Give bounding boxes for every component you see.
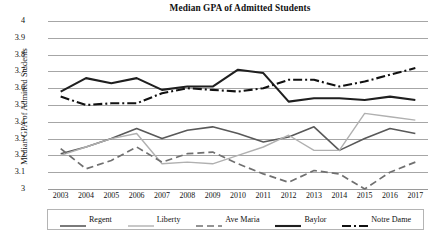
legend-item-notre-dame[interactable]: Notre Dame — [342, 215, 411, 224]
chart-title: Median GPA of Admitted Students — [60, 3, 420, 13]
chart-container: Median GPA of Admitted Students Median G… — [0, 0, 440, 242]
legend-item-ave-maria[interactable]: Ave Maria — [196, 215, 259, 224]
series-line-regent — [61, 127, 416, 154]
y-axis-tick: 3.4 — [0, 117, 25, 126]
legend-label: Baylor — [304, 215, 326, 224]
series-line-ave-maria — [61, 147, 416, 189]
legend-label: Notre Dame — [371, 215, 411, 224]
legend-label: Regent — [89, 215, 112, 224]
legend-label: Ave Maria — [225, 215, 259, 224]
series-line-baylor — [61, 70, 416, 102]
y-axis-tick: 3.9 — [0, 33, 25, 42]
legend-swatch-icon — [275, 216, 301, 224]
y-axis-tick: 4 — [0, 16, 25, 25]
legend-item-liberty[interactable]: Liberty — [128, 215, 181, 224]
legend-swatch-icon — [128, 216, 154, 224]
legend-swatch-icon — [60, 216, 86, 224]
caption-text — [0, 234, 440, 242]
legend-label: Liberty — [157, 215, 181, 224]
series-lines — [48, 21, 428, 189]
chart-legend: RegentLibertyAve MariaBaylorNotre Dame — [47, 209, 424, 230]
x-axis-tick: 2017 — [398, 191, 432, 200]
legend-swatch-icon — [342, 216, 368, 224]
y-axis-tick: 3.6 — [0, 83, 25, 92]
legend-swatch-icon — [196, 216, 222, 224]
legend-item-baylor[interactable]: Baylor — [275, 215, 326, 224]
gridline — [48, 189, 428, 190]
y-axis-tick: 3.2 — [0, 150, 25, 159]
y-axis-tick: 3 — [0, 184, 25, 193]
series-line-liberty — [61, 113, 416, 163]
y-axis-tick: 3.8 — [0, 50, 25, 59]
plot-area — [48, 21, 428, 189]
y-axis-tick: 3.3 — [0, 134, 25, 143]
y-axis-tick: 3.1 — [0, 167, 25, 176]
y-axis-tick: 3.5 — [0, 100, 25, 109]
y-axis-tick: 3.7 — [0, 66, 25, 75]
legend-item-regent[interactable]: Regent — [60, 215, 112, 224]
